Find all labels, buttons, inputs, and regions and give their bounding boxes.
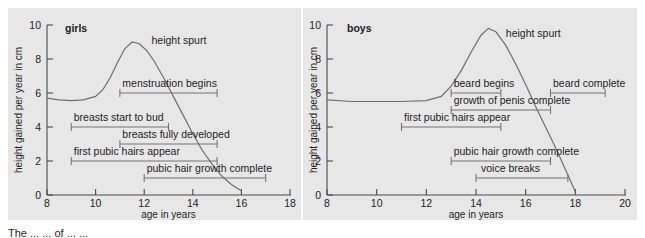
milestone-label: beard begins bbox=[454, 77, 515, 89]
chart-title: girls bbox=[65, 22, 87, 34]
milestone-label: voice breaks bbox=[481, 162, 540, 174]
milestone-annotation: pubic hair growth complete bbox=[144, 162, 272, 182]
y-tick-label: 10 bbox=[309, 19, 321, 31]
milestone-label: pubic hair growth complete bbox=[147, 162, 273, 174]
x-tick-label: 18 bbox=[569, 197, 581, 209]
y-tick-label: 8 bbox=[35, 53, 41, 65]
y-tick-label: 6 bbox=[35, 87, 41, 99]
figure-root: 024681081012141618age in yearsheight gai… bbox=[0, 0, 645, 238]
x-tick-label: 16 bbox=[236, 197, 248, 209]
milestone-label: growth of penis complete bbox=[454, 94, 571, 106]
milestone-annotation: menstruation begins bbox=[120, 77, 217, 97]
y-axis-title: height gained per year in cm bbox=[13, 47, 24, 173]
girls-chart-svg: 024681081012141618age in yearsheight gai… bbox=[8, 8, 301, 220]
milestone-label: menstruation begins bbox=[122, 77, 217, 89]
boys-chart-svg: 02468108101214161820age in yearsheight g… bbox=[303, 8, 637, 220]
x-axis-title: age in years bbox=[449, 209, 503, 220]
milestone-annotation: first pubic hairs appear bbox=[402, 111, 511, 131]
x-tick-label: 10 bbox=[90, 197, 102, 209]
x-tick-label: 10 bbox=[371, 197, 383, 209]
x-tick-label: 14 bbox=[187, 197, 199, 209]
chart-panel-boys: 02468108101214161820age in yearsheight g… bbox=[303, 8, 637, 220]
chart-panel-girls: 024681081012141618age in yearsheight gai… bbox=[8, 8, 301, 220]
x-tick-label: 12 bbox=[138, 197, 150, 209]
x-axis-title: age in years bbox=[141, 209, 195, 220]
x-tick-label: 16 bbox=[520, 197, 532, 209]
milestone-label: beard complete bbox=[553, 77, 626, 89]
series-label: height spurt bbox=[506, 27, 561, 39]
y-axis-title: height gained per year in cm bbox=[308, 47, 319, 173]
milestone-label: first pubic hairs appear bbox=[74, 145, 181, 157]
milestone-label: breasts fully developed bbox=[122, 128, 230, 140]
y-tick-label: 4 bbox=[35, 121, 41, 133]
x-tick-label: 18 bbox=[284, 197, 296, 209]
milestone-annotation: voice breaks bbox=[476, 162, 568, 182]
y-tick-label: 10 bbox=[29, 19, 41, 31]
x-tick-label: 12 bbox=[420, 197, 432, 209]
y-tick-label: 0 bbox=[35, 189, 41, 201]
milestone-label: pubic hair growth complete bbox=[454, 145, 580, 157]
chart-title: boys bbox=[347, 22, 372, 34]
milestone-label: first pubic hairs appear bbox=[404, 111, 511, 123]
x-tick-label: 8 bbox=[44, 197, 50, 209]
series-label: height spurt bbox=[151, 34, 206, 46]
figure-caption-fragment: The ... ... of ... ... bbox=[8, 228, 308, 238]
milestone-label: breasts start to bud bbox=[74, 111, 164, 123]
y-tick-label: 0 bbox=[315, 189, 321, 201]
y-tick-label: 2 bbox=[35, 155, 41, 167]
x-tick-label: 8 bbox=[324, 197, 330, 209]
x-tick-label: 14 bbox=[470, 197, 482, 209]
x-tick-label: 20 bbox=[619, 197, 631, 209]
